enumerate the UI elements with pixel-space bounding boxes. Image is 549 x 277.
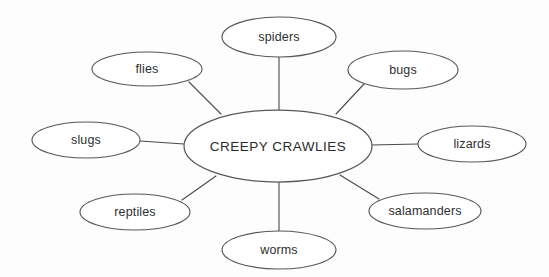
- node-label-bugs: bugs: [389, 63, 417, 77]
- node-lizards[interactable]: lizards: [418, 126, 526, 162]
- center-node[interactable]: CREEPY CRAWLIES: [184, 110, 372, 182]
- connector-line-bugs: [336, 84, 364, 114]
- node-bugs[interactable]: bugs: [348, 51, 458, 89]
- connector-line-reptiles: [182, 176, 216, 200]
- node-label-lizards: lizards: [453, 137, 490, 151]
- node-slugs[interactable]: slugs: [32, 122, 140, 158]
- connector-line-flies: [189, 82, 221, 114]
- node-worms[interactable]: worms: [222, 231, 336, 269]
- node-label-flies: flies: [136, 62, 159, 76]
- node-label-slugs: slugs: [71, 133, 101, 147]
- node-spiders[interactable]: spiders: [222, 17, 336, 57]
- center-node-label: CREEPY CRAWLIES: [210, 139, 347, 154]
- connector-line-salamanders: [340, 175, 379, 199]
- node-label-reptiles: reptiles: [114, 205, 156, 219]
- node-salamanders[interactable]: salamanders: [369, 193, 481, 229]
- spider-diagram-svg: CREEPY CRAWLIES spiders bugs lizards sal…: [0, 0, 549, 277]
- connector-line-slugs: [140, 141, 184, 144]
- node-flies[interactable]: flies: [92, 52, 202, 86]
- node-label-salamanders: salamanders: [388, 204, 461, 218]
- connector-line-lizards: [372, 144, 418, 145]
- node-label-worms: worms: [259, 243, 298, 257]
- node-reptiles[interactable]: reptiles: [80, 194, 190, 230]
- spider-diagram-canvas: CREEPY CRAWLIES spiders bugs lizards sal…: [0, 0, 549, 277]
- node-label-spiders: spiders: [258, 30, 299, 44]
